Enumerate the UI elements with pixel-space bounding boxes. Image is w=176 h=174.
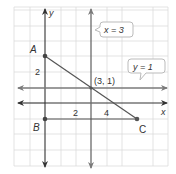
point-b [43, 117, 48, 122]
callout-x3-text: x = 3 [103, 25, 124, 35]
point-c-label: C [139, 124, 146, 135]
intersection-point [89, 86, 92, 89]
callout-y1: y = 1 [128, 59, 165, 80]
y-axis-label: y [48, 8, 54, 18]
callout-y1-text: y = 1 [132, 62, 153, 72]
coordinate-plane-diagram: A B C 2 2 4 x y (3, 1) x = 3 y = 1 [0, 0, 176, 174]
x-axis-label: x [160, 107, 166, 117]
callout-x3: x = 3 [95, 22, 133, 37]
point-a-label: A [29, 44, 37, 55]
intersection-label: (3, 1) [94, 76, 115, 86]
point-a [43, 54, 48, 59]
y-tick-2: 2 [35, 67, 40, 77]
point-b-label: B [33, 122, 40, 133]
x-tick-2: 2 [73, 108, 78, 118]
x-tick-4: 4 [104, 108, 109, 118]
point-c [135, 117, 140, 122]
